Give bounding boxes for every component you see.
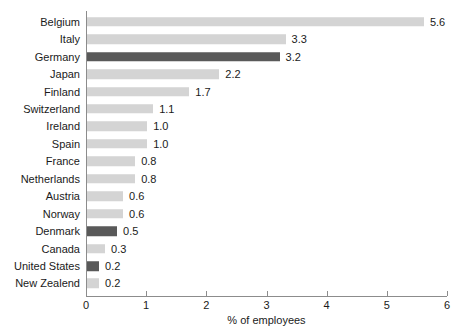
bar-value-label: 0.2: [105, 277, 120, 289]
bar: [87, 17, 424, 27]
x-axis-tick-label: 3: [252, 299, 282, 312]
bar-row: Netherlands0.8: [0, 170, 461, 187]
bar-row: Norway0.6: [0, 205, 461, 222]
x-axis-line: [86, 296, 447, 297]
bar-row: Finland1.7: [0, 83, 461, 100]
bar-value-label: 1.7: [195, 86, 210, 98]
x-axis-tick: [206, 291, 207, 296]
bar: [87, 244, 105, 254]
bar-row: France0.8: [0, 153, 461, 170]
bar-value-label: 1.0: [153, 138, 168, 150]
category-label: New Zealend: [15, 277, 80, 289]
bar-row: Austria0.6: [0, 188, 461, 205]
category-label: Switzerland: [23, 103, 80, 115]
bar-value-label: 5.6: [430, 16, 445, 28]
x-axis-tick-label: 6: [432, 299, 461, 312]
category-label: Japan: [50, 68, 80, 80]
bar: [87, 87, 189, 97]
bar: [87, 174, 135, 184]
category-label: Denmark: [35, 225, 80, 237]
bar: [87, 104, 153, 114]
bar: [87, 52, 280, 62]
category-label: Austria: [46, 190, 80, 202]
bar-chart: Belgium5.6Italy3.3Germany3.2Japan2.2Finl…: [0, 0, 461, 333]
bar-row: Canada0.3: [0, 240, 461, 257]
x-axis-tick: [146, 291, 147, 296]
bar: [87, 279, 99, 289]
category-label: Canada: [41, 243, 80, 255]
bar-value-label: 1.0: [153, 120, 168, 132]
bar: [87, 122, 147, 132]
bar-value-label: 3.3: [292, 33, 307, 45]
x-axis-tick-label: 4: [312, 299, 342, 312]
bar-row: Italy3.3: [0, 30, 461, 47]
category-label: Ireland: [46, 120, 80, 132]
category-label: Italy: [60, 33, 80, 45]
bar-value-label: 1.1: [159, 103, 174, 115]
bar: [87, 261, 99, 271]
category-label: Netherlands: [21, 173, 80, 185]
plot-area: Belgium5.6Italy3.3Germany3.2Japan2.2Finl…: [0, 0, 461, 333]
x-axis-tick: [327, 291, 328, 296]
bar-value-label: 3.2: [286, 51, 301, 63]
x-axis-tick-label: 2: [191, 299, 221, 312]
bar-row: Japan2.2: [0, 65, 461, 82]
bar-row: Ireland1.0: [0, 118, 461, 135]
bar-value-label: 0.3: [111, 243, 126, 255]
bar-row: United States0.2: [0, 257, 461, 274]
bar-row: Denmark0.5: [0, 222, 461, 239]
bar-value-label: 0.8: [141, 155, 156, 167]
category-label: Norway: [43, 208, 80, 220]
x-axis-tick-label: 1: [131, 299, 161, 312]
category-label: Germany: [35, 51, 80, 63]
category-label: Finland: [44, 86, 80, 98]
bar: [87, 139, 147, 149]
bar-row: Spain1.0: [0, 135, 461, 152]
bar: [87, 191, 123, 201]
bar-value-label: 0.6: [129, 208, 144, 220]
bar-value-label: 2.2: [225, 68, 240, 80]
bar-value-label: 0.6: [129, 190, 144, 202]
x-axis-tick: [447, 291, 448, 296]
bar-value-label: 0.5: [123, 225, 138, 237]
x-axis-tick: [267, 291, 268, 296]
x-axis-tick: [387, 291, 388, 296]
bar: [87, 157, 135, 167]
category-label: United States: [14, 260, 80, 272]
bar-row: Germany3.2: [0, 48, 461, 65]
bar-value-label: 0.2: [105, 260, 120, 272]
x-axis-tick-label: 0: [71, 299, 101, 312]
x-axis-tick-label: 5: [372, 299, 402, 312]
x-axis-tick: [86, 291, 87, 296]
category-label: Spain: [52, 138, 80, 150]
bar: [87, 209, 123, 219]
bar: [87, 34, 286, 44]
bar: [87, 226, 117, 236]
bar: [87, 69, 219, 79]
category-label: Belgium: [40, 16, 80, 28]
bar-row: Belgium5.6: [0, 13, 461, 30]
category-label: France: [46, 155, 80, 167]
bar-value-label: 0.8: [141, 173, 156, 185]
bar-row: New Zealend0.2: [0, 275, 461, 292]
bar-row: Switzerland1.1: [0, 100, 461, 117]
x-axis-title: % of employees: [86, 314, 447, 327]
